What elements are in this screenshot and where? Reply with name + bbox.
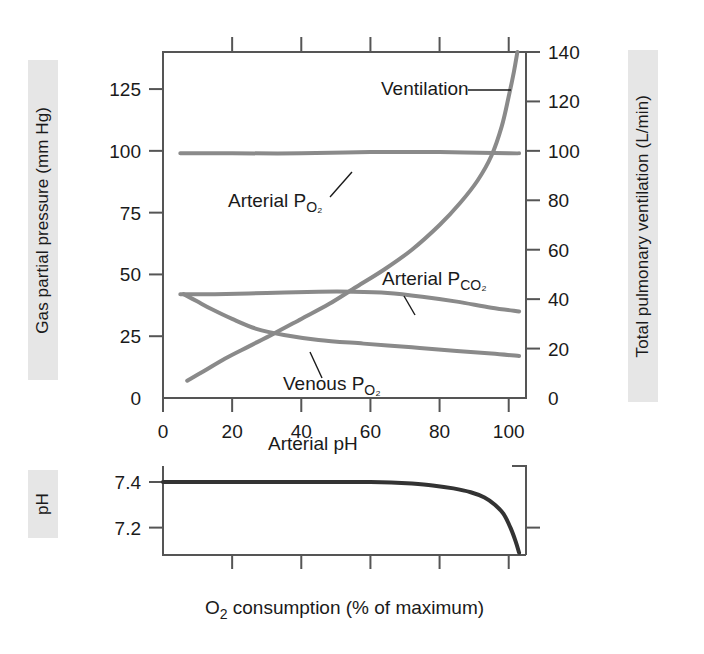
right-tick-label-5: 100 <box>548 141 580 162</box>
right-tick-label-3: 60 <box>548 240 569 261</box>
series-arterial-ph <box>163 482 519 553</box>
x-tick-label-4: 80 <box>429 421 450 442</box>
x-tick-label-1: 20 <box>222 421 243 442</box>
series-arterial-po2 <box>180 152 519 153</box>
arterial-ph-label: Arterial pH <box>268 433 358 454</box>
left-tick-label-4: 100 <box>109 141 141 162</box>
x-tick-label-3: 60 <box>360 421 381 442</box>
left-tick-label-5: 125 <box>109 79 141 100</box>
ventilation-label: Ventilation <box>381 78 469 99</box>
arterial-pco2-label-leader <box>404 296 415 315</box>
left-tick-label-1: 25 <box>120 326 141 347</box>
series-ventilation <box>187 52 517 381</box>
right-tick-label-6: 120 <box>548 91 580 112</box>
right-tick-label-4: 80 <box>548 190 569 211</box>
figure-root: Gas partial pressure (mm Hg) Total pulmo… <box>0 0 704 654</box>
arterial-po2-label: Arterial PO₂ <box>228 190 322 215</box>
left-tick-label-0: 0 <box>130 388 141 409</box>
left-tick-label-2: 50 <box>120 264 141 285</box>
right-tick-label-2: 40 <box>548 289 569 310</box>
arterial-po2-label-leader <box>330 172 352 197</box>
series-arterial-pco2 <box>180 292 519 312</box>
x-tick-label-0: 0 <box>158 421 169 442</box>
right-tick-label-7: 140 <box>548 42 580 63</box>
venous-po2-label: Venous PO₂ <box>283 373 381 398</box>
ph-panel-frame <box>163 466 526 555</box>
chart-canvas: 0255075100125020406080100120140020406080… <box>0 0 704 654</box>
x-tick-label-5: 100 <box>493 421 525 442</box>
x-axis-title: O2 consumption (% of maximum) <box>205 597 484 622</box>
right-tick-label-0: 0 <box>548 388 559 409</box>
right-tick-label-1: 20 <box>548 339 569 360</box>
ph-tick-label-1: 7.4 <box>115 472 142 493</box>
arterial-pco2-label: Arterial PCO₂ <box>382 268 487 293</box>
gas-panel-frame <box>163 52 526 398</box>
ph-tick-label-0: 7.2 <box>115 518 141 539</box>
left-tick-label-3: 75 <box>120 203 141 224</box>
